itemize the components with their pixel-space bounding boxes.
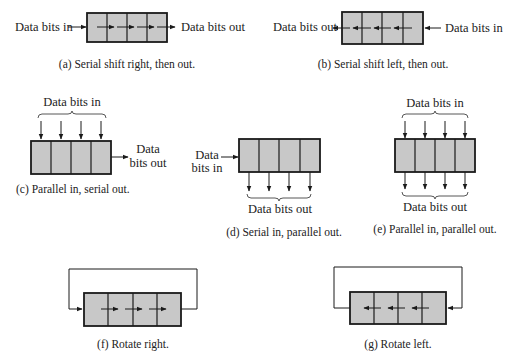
panel-a-serial-shift-right: Data bits in Data bits out (a) Serial sh… <box>15 13 245 71</box>
panel-a-input-label: Data bits in <box>15 20 73 34</box>
panel-e-input-label: Data bits in <box>406 96 464 110</box>
panel-a-caption: (a) Serial shift right, then out. <box>59 58 195 71</box>
panel-f-rotate-right: (f) Rotate right. <box>69 269 197 351</box>
panel-b-caption: (b) Serial shift left, then out. <box>318 58 449 71</box>
panel-b-serial-shift-left: Data bits out Data bits in (b) Serial sh… <box>273 12 503 71</box>
brace-icon <box>38 111 106 118</box>
brace-icon <box>402 192 468 199</box>
panel-b-input-label: Data bits in <box>445 21 503 35</box>
panel-d-serial-in-parallel-out: Data bits in Data bits out (d) Serial in… <box>192 139 342 239</box>
panel-a-output-label: Data bits out <box>181 20 245 34</box>
panel-e-output-label: Data bits out <box>403 200 467 214</box>
panel-f-caption: (f) Rotate right. <box>97 338 169 351</box>
panel-d-caption: (d) Serial in, parallel out. <box>226 226 342 239</box>
shift-register-diagram: Data bits in Data bits out (a) Serial sh… <box>0 0 516 362</box>
panel-g-rotate-left: (g) Rotate left. <box>334 267 462 351</box>
panel-c-output-label-line2: bits out <box>129 156 167 170</box>
brace-icon <box>402 111 468 118</box>
panel-c-parallel-in-serial-out: Data bits in Data bits out (c) Parallel … <box>16 95 167 196</box>
brace-icon <box>247 194 311 201</box>
panel-c-input-label: Data bits in <box>43 95 101 109</box>
panel-g-caption: (g) Rotate left. <box>364 338 432 351</box>
panel-d-input-label-line2: bits in <box>192 161 224 175</box>
panel-c-output-label-line1: Data <box>136 142 160 156</box>
panel-d-output-label: Data bits out <box>248 202 312 216</box>
panel-c-caption: (c) Parallel in, serial out. <box>16 183 130 196</box>
panel-e-parallel-in-parallel-out: Data bits in Data bits out (e) Parallel … <box>373 96 496 236</box>
panel-e-caption: (e) Parallel in, parallel out. <box>373 223 496 236</box>
panel-d-input-label-line1: Data <box>195 148 219 162</box>
panel-b-output-label: Data bits out <box>273 20 337 34</box>
